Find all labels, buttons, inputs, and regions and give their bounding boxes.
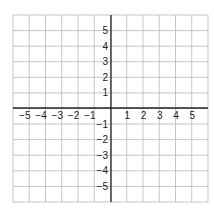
- x-tick-label: −1: [84, 110, 96, 121]
- x-tick-label: 4: [173, 110, 179, 121]
- y-tick-label: −5: [97, 181, 109, 192]
- x-tick-label: −3: [52, 110, 64, 121]
- coordinate-plane: −5−4−3−2−112345 54321−1−2−3−4−5: [0, 0, 214, 209]
- y-tick-label: −4: [97, 165, 109, 176]
- y-tick-label: −2: [97, 134, 109, 145]
- y-tick-label: −3: [97, 150, 109, 161]
- y-tick-label: 5: [102, 25, 108, 36]
- x-tick-label: 3: [157, 110, 163, 121]
- x-tick-label: 2: [141, 110, 147, 121]
- y-tick-label: 4: [102, 41, 108, 52]
- x-tick-label: 5: [189, 110, 195, 121]
- x-tick-label: −2: [68, 110, 80, 121]
- x-tick-label: −4: [35, 110, 47, 121]
- x-tick-label: 1: [124, 110, 130, 121]
- x-tick-label: −5: [19, 110, 31, 121]
- y-tick-label: 2: [102, 72, 108, 83]
- y-tick-label: 1: [102, 87, 108, 98]
- y-tick-label: 3: [102, 56, 108, 67]
- y-tick-label: −1: [97, 119, 109, 130]
